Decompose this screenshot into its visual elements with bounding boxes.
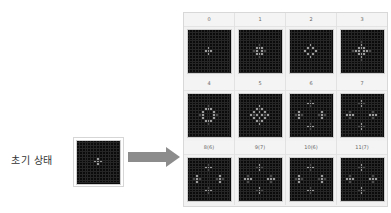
- generation-label: 11(7): [337, 141, 387, 155]
- right-arrow-icon: [128, 147, 180, 167]
- grid-cell: [228, 70, 231, 73]
- generation-cell: 7: [337, 77, 387, 141]
- generation-cell: 6: [286, 77, 337, 141]
- grid-cell: [228, 134, 231, 137]
- generation-grid: [188, 94, 231, 137]
- grid-cell: [381, 70, 384, 73]
- grid-cell: [381, 134, 384, 137]
- generation-grid: [290, 94, 333, 137]
- grid-cell: [228, 198, 231, 201]
- generation-grid: [239, 30, 282, 73]
- initial-state-grid: [77, 141, 120, 184]
- generation-grid: [239, 94, 282, 137]
- generation-cell: 2: [286, 13, 337, 77]
- generation-cell: 8(6): [184, 141, 235, 205]
- generation-cell: 3: [337, 13, 387, 77]
- generation-label: 6: [286, 77, 336, 91]
- generation-cell: 9(7): [235, 141, 286, 205]
- generation-grid: [341, 158, 384, 201]
- generation-label: 7: [337, 77, 387, 91]
- generation-cell: 10(6): [286, 141, 337, 205]
- generation-cell: 4: [184, 77, 235, 141]
- generation-grid: [341, 94, 384, 137]
- generation-label: 8(6): [184, 141, 234, 155]
- generation-label: 4: [184, 77, 234, 91]
- generations-panel: 0 1 2 3 4 5 6 7 8(6) 9(7) 10(6) 11(7): [183, 12, 388, 207]
- grid-cell: [117, 181, 120, 184]
- generation-cell: 5: [235, 77, 286, 141]
- generation-label: 1: [235, 13, 285, 27]
- generation-grid: [290, 158, 333, 201]
- generation-row: 4 5 6 7: [184, 77, 387, 141]
- grid-cell: [279, 70, 282, 73]
- grid-cell: [330, 134, 333, 137]
- grid-cell: [279, 134, 282, 137]
- grid-cell: [381, 198, 384, 201]
- grid-cell: [330, 70, 333, 73]
- generation-row: 0 1 2 3: [184, 13, 387, 77]
- generation-row: 8(6) 9(7) 10(6) 11(7): [184, 141, 387, 205]
- grid-cell: [279, 198, 282, 201]
- initial-state-label: 초기 상태: [11, 152, 53, 167]
- generation-label: 3: [337, 13, 387, 27]
- generation-label: 0: [184, 13, 234, 27]
- generation-grid: [239, 158, 282, 201]
- generation-cell: 0: [184, 13, 235, 77]
- generation-grid: [188, 158, 231, 201]
- grid-cell: [330, 198, 333, 201]
- generation-label: 10(6): [286, 141, 336, 155]
- generation-label: 9(7): [235, 141, 285, 155]
- generation-cell: 11(7): [337, 141, 387, 205]
- generation-label: 2: [286, 13, 336, 27]
- generation-grid: [341, 30, 384, 73]
- generation-grid: [188, 30, 231, 73]
- generation-grid: [290, 30, 333, 73]
- generation-label: 5: [235, 77, 285, 91]
- generation-cell: 1: [235, 13, 286, 77]
- initial-state-frame: [73, 137, 124, 187]
